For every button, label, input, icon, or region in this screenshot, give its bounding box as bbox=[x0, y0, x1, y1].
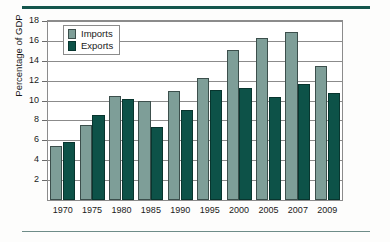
bar-exports-1970 bbox=[63, 142, 75, 200]
bar-group bbox=[195, 21, 224, 200]
legend-item-exports: Exports bbox=[68, 41, 113, 51]
x-axis-tick-label: 1995 bbox=[195, 205, 224, 215]
bar-exports-1975 bbox=[92, 115, 104, 200]
bar-exports-1995 bbox=[210, 90, 222, 200]
legend-swatch-imports-icon bbox=[68, 29, 76, 39]
bar-group bbox=[166, 21, 195, 200]
top-divider-rule bbox=[22, 6, 370, 9]
y-axis-tick-label: 4 bbox=[17, 154, 39, 164]
bar-exports-2009 bbox=[328, 93, 340, 200]
bar-imports-1995 bbox=[197, 78, 209, 200]
bar-imports-1975 bbox=[80, 125, 92, 200]
bar-exports-1990 bbox=[181, 110, 193, 200]
x-axis-tick-label: 1980 bbox=[107, 205, 136, 215]
bar-exports-2005 bbox=[269, 97, 281, 200]
legend-label-exports: Exports bbox=[81, 41, 113, 51]
bar-exports-1980 bbox=[122, 99, 134, 200]
bar-imports-1970 bbox=[50, 146, 62, 200]
bar-imports-2007 bbox=[285, 32, 297, 200]
bottom-divider-rule bbox=[22, 231, 370, 232]
y-axis-tick-label: 18 bbox=[17, 15, 39, 25]
bar-exports-2000 bbox=[239, 88, 251, 200]
bar-exports-1985 bbox=[151, 127, 163, 200]
bar-imports-2009 bbox=[315, 66, 327, 200]
bar-group bbox=[283, 21, 312, 200]
chart-legend: Imports Exports bbox=[63, 25, 120, 55]
y-axis-tick-label: 16 bbox=[17, 35, 39, 45]
x-axis-tick-label: 2005 bbox=[254, 205, 283, 215]
chart-figure: Percentage of GDP 24681012141618 Imports… bbox=[0, 0, 390, 242]
bar-imports-2005 bbox=[256, 38, 268, 200]
bar-exports-2007 bbox=[298, 84, 310, 200]
bar-group bbox=[224, 21, 253, 200]
x-axis-tick-label: 1970 bbox=[48, 205, 77, 215]
legend-item-imports: Imports bbox=[68, 29, 113, 39]
bar-group bbox=[254, 21, 283, 200]
x-axis-tick-label: 2009 bbox=[313, 205, 342, 215]
bar-imports-1990 bbox=[168, 91, 180, 200]
bar-group bbox=[136, 21, 165, 200]
legend-label-imports: Imports bbox=[81, 29, 113, 39]
bar-imports-1985 bbox=[138, 101, 150, 200]
y-axis-tick-label: 14 bbox=[17, 55, 39, 65]
bar-imports-2000 bbox=[227, 50, 239, 200]
legend-swatch-exports-icon bbox=[68, 41, 76, 51]
x-axis-tick-label: 1985 bbox=[136, 205, 165, 215]
bar-group bbox=[313, 21, 342, 200]
x-axis-tick-label: 2000 bbox=[224, 205, 253, 215]
x-axis-tick-label: 2007 bbox=[283, 205, 312, 215]
y-axis-tick-label: 2 bbox=[17, 174, 39, 184]
x-axis-tick-label: 1990 bbox=[166, 205, 195, 215]
bar-imports-1980 bbox=[109, 96, 121, 200]
y-axis-tick-label: 12 bbox=[17, 75, 39, 85]
x-axis-tick-label: 1975 bbox=[77, 205, 106, 215]
y-axis-tick-label: 10 bbox=[17, 95, 39, 105]
y-axis-tick-label: 8 bbox=[17, 114, 39, 124]
plot-area: Imports Exports bbox=[47, 20, 343, 201]
y-axis-tick-label: 6 bbox=[17, 134, 39, 144]
